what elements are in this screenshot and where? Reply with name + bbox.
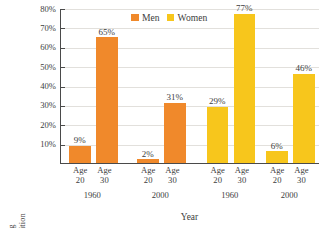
bars-layer: 9%65%2%31%29%77%6%46% xyxy=(61,9,319,163)
x-axis-age-number: 30 xyxy=(92,175,116,185)
legend-label: Men xyxy=(142,12,160,23)
bar-value-label: 9% xyxy=(62,135,98,145)
bar-value-label: 31% xyxy=(157,92,193,102)
x-axis-age-number: 30 xyxy=(289,175,313,185)
legend: MenWomen xyxy=(131,12,207,23)
x-axis-age-number: 20 xyxy=(265,175,289,185)
x-axis-age-label: Age30 xyxy=(230,165,254,186)
x-axis-group: Age20Age301960 xyxy=(68,165,117,200)
bar xyxy=(234,14,256,163)
x-axis-age-word: Age xyxy=(160,165,184,175)
x-axis-age-number: 20 xyxy=(206,175,230,185)
x-axis-age-word: Age xyxy=(265,165,289,175)
legend-swatch-icon xyxy=(131,14,139,22)
x-axis-age-word: Age xyxy=(230,165,254,175)
x-axis-age-word: Age xyxy=(136,165,160,175)
bar-value-label: 65% xyxy=(89,27,125,37)
x-axis-age-number: 30 xyxy=(160,175,184,185)
y-axis-tick-label: 50% xyxy=(28,63,56,72)
x-axis-age-word: Age xyxy=(289,165,313,175)
x-axis-age-number: 30 xyxy=(230,175,254,185)
y-axis-tick-label: 80% xyxy=(28,5,56,14)
x-axis-age-label: Age20 xyxy=(265,165,289,186)
y-axis-tick-labels: 80%70%60%50%40%30%20%10% xyxy=(28,0,56,164)
x-axis-group: Age20Age301960 xyxy=(206,165,255,200)
x-axis-age-label: Age30 xyxy=(92,165,116,186)
plot-area: 9%65%2%31%29%77%6%46% xyxy=(60,9,319,164)
legend-label: Women xyxy=(178,12,208,23)
x-axis-title: Year xyxy=(60,212,319,222)
bar xyxy=(293,74,315,163)
y-axis-title-line-2: Completed the Transition xyxy=(18,172,29,228)
legend-item: Men xyxy=(131,12,160,23)
y-axis-tick-label: 60% xyxy=(28,43,56,52)
x-axis-age-label: Age20 xyxy=(136,165,160,186)
bar-value-label: 6% xyxy=(259,141,295,151)
bar xyxy=(137,159,159,163)
y-axis-tick-label: 10% xyxy=(28,140,56,149)
x-axis-age-number: 20 xyxy=(68,175,92,185)
x-axis-group: Age20Age302000 xyxy=(136,165,185,200)
x-axis-year-label: 2000 xyxy=(265,190,314,200)
bar-value-label: 2% xyxy=(130,149,166,159)
bar xyxy=(207,107,229,163)
bar xyxy=(69,146,91,163)
bar-value-label: 29% xyxy=(200,96,236,106)
x-axis-age-label: Age20 xyxy=(68,165,92,186)
x-axis-age-word: Age xyxy=(92,165,116,175)
legend-item: Women xyxy=(167,12,208,23)
y-axis-tick-label: 40% xyxy=(28,82,56,91)
x-axis-age-number: 20 xyxy=(136,175,160,185)
bar-value-label: 46% xyxy=(286,63,322,73)
bar-value-label: 77% xyxy=(227,3,263,13)
y-axis-title-line-1: Percentage Having xyxy=(7,172,18,228)
x-axis-age-label: Age30 xyxy=(289,165,313,186)
x-axis-group: Age20Age302000 xyxy=(265,165,314,200)
x-axis-age-word: Age xyxy=(68,165,92,175)
y-axis-title: Percentage Having Completed the Transiti… xyxy=(0,0,30,180)
x-axis-year-label: 1960 xyxy=(206,190,255,200)
bar xyxy=(266,151,288,163)
bar xyxy=(164,103,186,163)
legend-swatch-icon xyxy=(167,14,175,22)
x-axis-labels: Age20Age301960Age20Age302000Age20Age3019… xyxy=(60,165,319,211)
bar xyxy=(96,37,118,163)
x-axis-age-label: Age20 xyxy=(206,165,230,186)
x-axis-year-label: 2000 xyxy=(136,190,185,200)
bar-chart: Percentage Having Completed the Transiti… xyxy=(0,0,325,228)
x-axis-age-label: Age30 xyxy=(160,165,184,186)
y-axis-tick-label: 20% xyxy=(28,121,56,130)
x-axis-age-word: Age xyxy=(206,165,230,175)
x-axis-year-label: 1960 xyxy=(68,190,117,200)
y-axis-tick-label: 70% xyxy=(28,24,56,33)
y-axis-tick-label: 30% xyxy=(28,101,56,110)
